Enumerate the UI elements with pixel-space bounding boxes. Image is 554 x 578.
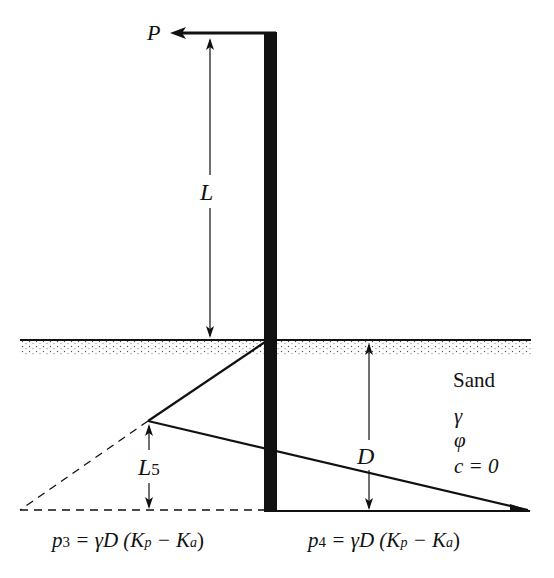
load-label: P [147, 22, 160, 44]
cohesion-label: c = 0 [454, 456, 499, 477]
zero-pressure-offset-label: L5 [138, 455, 160, 479]
sheet-pile [264, 32, 277, 512]
embedment-depth-label: D [357, 444, 374, 468]
unit-weight-symbol: γ [454, 406, 462, 427]
sheet-pile-diagram [0, 0, 554, 578]
friction-angle-symbol: φ [454, 430, 466, 451]
dimension-D [365, 343, 373, 510]
load-arrow [170, 27, 276, 39]
soil-name: Sand [453, 370, 495, 391]
pressure-p4-formula: p4 = γD (Kp − Ka) [308, 530, 460, 551]
pressure-p3-formula: p3 = γD (Kp − Ka) [52, 530, 204, 551]
cantilever-length-label: L [200, 180, 213, 204]
